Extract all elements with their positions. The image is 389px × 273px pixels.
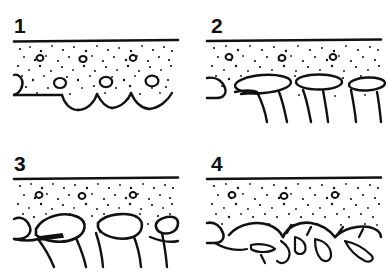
panel-4-number: 4	[211, 152, 223, 175]
figure-root: 1	[0, 0, 389, 273]
panel-3-illustration: 3	[0, 137, 194, 273]
panel-3-number: 3	[14, 152, 26, 175]
panel-3-artwork	[14, 178, 178, 268]
panel-1: 1	[0, 0, 194, 136]
cortical-surface-line	[207, 40, 381, 42]
panel-2-illustration: 2	[195, 0, 389, 136]
lacunae-upper	[37, 55, 137, 62]
cortical-surface-line	[14, 178, 178, 180]
cortical-surface-line	[207, 178, 381, 180]
panel-2-artwork	[207, 40, 385, 123]
lacunae-upper	[229, 192, 339, 199]
matrix-stipple	[211, 183, 380, 226]
panel-4: 4	[195, 137, 389, 273]
panel-4-artwork	[207, 178, 381, 264]
panel-3: 3	[0, 137, 194, 273]
panel-1-illustration: 1	[0, 0, 194, 136]
cortical-surface-line	[14, 40, 178, 42]
lacunae-upper	[226, 54, 337, 61]
panel-2-number: 2	[211, 14, 223, 37]
panel-4-illustration: 4	[195, 137, 389, 273]
lacunae-upper	[36, 192, 137, 199]
lacunae-lower	[54, 76, 158, 88]
panel-1-number: 1	[14, 14, 26, 37]
panel-2: 2	[195, 0, 389, 136]
matrix-stipple	[17, 45, 173, 95]
fragmented-spicules	[215, 225, 373, 263]
panel-1-artwork	[14, 40, 178, 110]
